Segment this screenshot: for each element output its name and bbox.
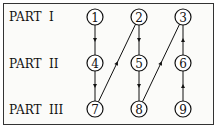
arrowhead-4-7	[93, 84, 97, 88]
node-label: 8	[135, 103, 143, 117]
node-2: 2	[131, 9, 147, 25]
node-label: 6	[179, 57, 187, 71]
node-8: 8	[131, 101, 147, 117]
node-label: 5	[135, 57, 143, 71]
node-4: 4	[87, 55, 103, 71]
node-7: 7	[87, 101, 103, 117]
node-label: 2	[135, 11, 143, 25]
node-5: 5	[131, 55, 147, 71]
node-label: 1	[91, 11, 99, 25]
arrowhead-5-8	[137, 84, 141, 88]
row-label-part-3: PART III	[9, 103, 64, 117]
node-label: 4	[91, 57, 99, 71]
node-label: 7	[91, 103, 99, 117]
flow-diagram: PART I PART II PART III 123456789	[0, 0, 218, 129]
arrowhead-6-3	[181, 38, 185, 42]
node-label: 3	[179, 11, 187, 25]
node-1: 1	[87, 9, 103, 25]
node-label: 9	[179, 103, 187, 117]
row-label-part-1: PART I	[9, 10, 54, 24]
row-label-part-2: PART II	[9, 57, 59, 71]
arrowhead-9-6	[181, 84, 185, 88]
node-3: 3	[175, 9, 191, 25]
arrowhead-1-4	[93, 38, 97, 42]
node-6: 6	[175, 55, 191, 71]
arrowhead-2-5	[137, 38, 141, 42]
node-9: 9	[175, 101, 191, 117]
